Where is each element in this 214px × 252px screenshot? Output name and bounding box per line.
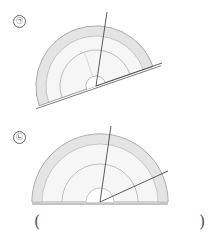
protractor-diagram-b	[0, 126, 214, 206]
answer-close-paren: )	[199, 212, 205, 231]
answer-open-paren: (	[34, 212, 40, 231]
protractor-diagram-a	[0, 0, 214, 125]
